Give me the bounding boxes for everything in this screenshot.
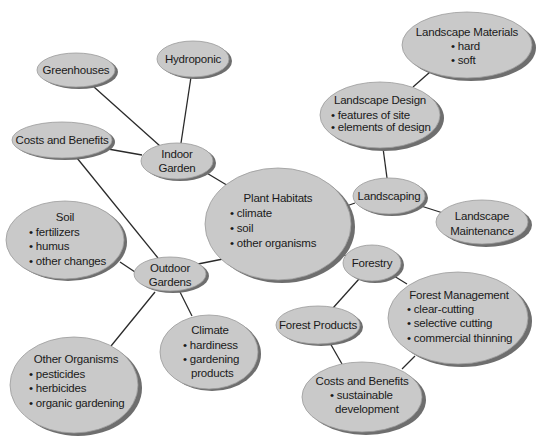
node-plant-habitats[interactable]: Plant Habitats • climate • soil • other … [205, 168, 355, 283]
node-bullet: • hard [451, 40, 480, 52]
node-label: Greenhouses [43, 64, 110, 76]
node-bullet: • elements of design [331, 121, 431, 133]
edge-forest-management-costs-benefits [402, 356, 415, 369]
node-bullet: • gardening [183, 353, 239, 365]
node-label-line1: Landscape [455, 210, 509, 222]
edge-indoor-garden-hydroponic [181, 77, 191, 143]
node-bullet-continuation: development [335, 403, 400, 415]
node-greenhouses[interactable]: Greenhouses [37, 53, 118, 89]
node-landscape-maintenance[interactable]: Landscape Maintenance [436, 200, 532, 247]
node-bullet: • sustainable [330, 389, 393, 401]
node-bullet: • other organisms [230, 237, 317, 249]
node-bullet: • pesticides [29, 368, 85, 380]
node-title: Soil [56, 211, 74, 223]
node-landscape-design[interactable]: Landscape Design • features of site • el… [320, 82, 444, 151]
node-bullet-continuation: products [191, 367, 234, 379]
edge-landscaping-landscape-design [383, 148, 387, 178]
node-forestry[interactable]: Forestry [343, 245, 404, 283]
node-other-organisms[interactable]: Other Organisms • pesticides • herbicide… [10, 337, 142, 436]
node-forest-management[interactable]: Forest Management • clear-cutting • sele… [388, 272, 532, 367]
node-label: Costs and Benefits [16, 134, 109, 146]
node-landscape-materials[interactable]: Landscape Materials • hard • soft [402, 12, 536, 81]
concept-map: Greenhouses Hydroponic Costs and Benefit… [0, 0, 540, 438]
node-costs-benefits-indoor[interactable]: Costs and Benefits [12, 122, 115, 160]
node-label: Forest Products [279, 319, 358, 331]
node-bullet: • soil [230, 222, 253, 234]
node-landscaping[interactable]: Landscaping [353, 178, 428, 216]
node-bullet: • fertilizers [29, 226, 80, 238]
edge-outdoor-gardens-soil [120, 262, 135, 272]
edge-outdoor-gardens-climate [180, 292, 192, 316]
node-label-line2: Gardens [149, 276, 192, 288]
node-indoor-garden[interactable]: Indoor Garden [141, 143, 216, 181]
node-soil[interactable]: Soil • fertilizers • humus • other chang… [6, 201, 127, 281]
node-title: Other Organisms [34, 353, 119, 365]
edge-indoor-garden-costs-benefits [108, 149, 142, 155]
node-forest-products[interactable]: Forest Products [276, 306, 363, 346]
node-title: Forest Management [409, 289, 510, 301]
node-bullet: • organic gardening [29, 397, 125, 409]
node-title: Costs and Benefits [316, 375, 409, 387]
node-label-line2: Garden [158, 162, 195, 174]
node-bullet: • hardiness [183, 339, 238, 351]
node-bullet: • features of site [331, 109, 410, 121]
node-costs-benefits-forest[interactable]: Costs and Benefits • sustainable develop… [302, 362, 426, 435]
node-label-line2: Maintenance [450, 225, 514, 237]
node-bullet: • selective cutting [407, 317, 492, 329]
node-title: Plant Habitats [244, 192, 313, 204]
node-label-line1: Indoor [161, 148, 193, 160]
edge-outdoor-gardens-other-organisms [111, 292, 155, 346]
node-outdoor-gardens[interactable]: Outdoor Gardens [134, 257, 209, 293]
node-hydroponic[interactable]: Hydroponic [157, 41, 232, 79]
node-climate[interactable]: Climate • hardiness • gardening products [160, 315, 261, 391]
node-title: Landscape Design [334, 94, 426, 106]
node-bullet: • commercial thinning [407, 332, 512, 344]
edge-forestry-forest-products [333, 279, 359, 308]
node-bullet: • climate [230, 207, 272, 219]
node-label: Landscaping [357, 190, 420, 202]
edge-landscape-design-landscape-materials [413, 72, 430, 87]
node-bullet: • soft [451, 54, 477, 66]
edge-forest-products-costs-benefits [330, 343, 342, 364]
node-bullet: • other changes [29, 255, 107, 267]
node-bullet: • humus [29, 240, 70, 252]
node-title: Landscape Materials [416, 26, 519, 38]
node-bullet: • clear-cutting [407, 303, 474, 315]
node-title: Climate [191, 324, 229, 336]
node-label: Forestry [352, 257, 393, 269]
edge-landscaping-landscape-maintenance [421, 206, 443, 213]
node-label: Hydroponic [165, 53, 222, 65]
node-bullet: • herbicides [29, 382, 87, 394]
node-label-line1: Outdoor [150, 262, 191, 274]
